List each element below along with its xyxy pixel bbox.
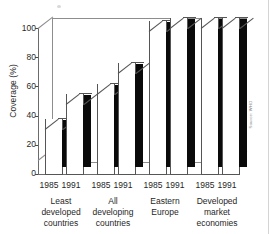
chart-figure: Coverage (%) 100 80 60 40 20 0 (0, 0, 277, 234)
bar-side-shadow (83, 95, 91, 167)
y-tick-label-40: 40 (14, 111, 36, 120)
y-tick-label-60: 60 (14, 82, 36, 91)
y-axis-tick-group: 100 80 60 40 20 0 (14, 20, 36, 180)
bar-side-shadow (239, 19, 247, 167)
x-year-label-g3-1985: 1985 (142, 180, 164, 190)
bar-face (45, 129, 63, 175)
bar-face (222, 28, 240, 175)
bar-top-back-edge (183, 17, 196, 18)
x-group-label-g4-line1: Developed (186, 196, 248, 207)
x-year-label-g2-1985: 1985 (90, 180, 112, 190)
x-year-label-g3-1991: 1991 (164, 180, 186, 190)
y-tick-label-80: 80 (14, 53, 36, 62)
y-tick-label-20: 20 (14, 140, 36, 149)
bar-top-back-edge (79, 93, 92, 94)
x-year-label-g1-1991: 1991 (60, 180, 82, 190)
bar-face (201, 28, 219, 175)
x-year-label-g1-1985: 1985 (38, 180, 60, 190)
bar-face (118, 73, 136, 175)
axis-front-vertical (38, 28, 39, 175)
bar-side-shadow (135, 64, 143, 167)
scan-artifact-speck (57, 5, 61, 8)
bar-side-shadow (187, 19, 195, 167)
axis-top-left-slant (38, 16, 54, 28)
bar-top-back-edge (131, 62, 144, 63)
y-tick-label-0: 0 (14, 169, 36, 178)
x-year-label-g4-1985: 1985 (194, 180, 216, 190)
page-rule-divider (268, 0, 269, 234)
source-credit-text: Source: WHO (248, 100, 253, 128)
bar-face (66, 104, 84, 175)
bar-face (97, 94, 115, 175)
x-group-label-g2-line3: countries (82, 218, 144, 229)
bar-face (149, 31, 167, 175)
x-year-label-g2-1991: 1991 (112, 180, 134, 190)
x-year-label-g4-1991: 1991 (216, 180, 238, 190)
x-group-label-g4-line2: market (186, 207, 248, 218)
bar-face (170, 28, 188, 175)
y-tick-label-100: 100 (14, 24, 36, 33)
x-group-label-g4-line3: economies (186, 218, 248, 229)
bar-top-back-edge (235, 17, 248, 18)
